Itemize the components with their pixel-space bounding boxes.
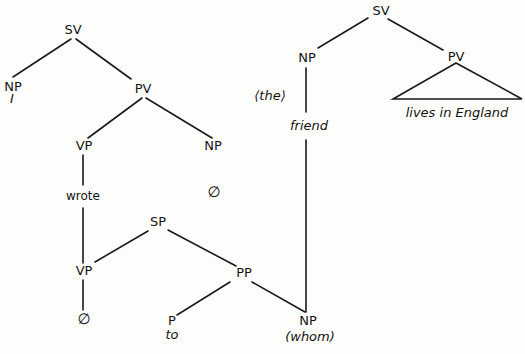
word-whom: (whom): [285, 329, 335, 344]
edge-pv1-vp1: [88, 98, 142, 138]
word-lives-in-england: lives in England: [406, 105, 509, 120]
node-np-object: NP: [204, 138, 222, 153]
null-symbol-object: ∅: [207, 183, 220, 201]
tree-svg: SV NP I PV VP NP ∅ wrote wrote SP VP PP …: [0, 0, 525, 354]
node-pv-relative: PV: [448, 49, 465, 64]
edge-sv1-np1: [13, 39, 71, 77]
word-the: ⟨the⟩: [254, 88, 285, 103]
edge-sv1-pv1: [76, 39, 131, 79]
word-friend: friend: [290, 118, 329, 133]
node-np-whom: NP: [299, 313, 317, 328]
word-i: I: [10, 91, 14, 106]
syntax-tree-diagram: SV NP I PV VP NP ∅ wrote wrote SP VP PP …: [0, 0, 525, 354]
node-pp: PP: [236, 265, 252, 280]
edge-pv1-np2: [146, 98, 212, 138]
node-vp-lower: VP: [76, 263, 93, 278]
triangle-pv2: [393, 63, 522, 99]
node-vp-upper: VP: [76, 138, 93, 153]
edge-sv2-np4: [318, 18, 368, 48]
edge-sp1-pp1: [168, 230, 236, 266]
word-wrote: wrote: [66, 189, 100, 203]
edge-pp1-p1: [177, 282, 230, 315]
node-sv-main: SV: [64, 22, 81, 37]
null-symbol-verb: ∅: [77, 310, 90, 328]
word-to: to: [165, 327, 178, 342]
node-np-relative: NP: [298, 50, 316, 65]
edge-sv2-pv2: [388, 19, 443, 50]
edge-pp1-np3: [252, 282, 305, 312]
node-sp: SP: [150, 214, 166, 229]
node-pv-main: PV: [135, 81, 152, 96]
node-p: P: [168, 313, 176, 328]
edge-sp1-vp2: [95, 231, 148, 262]
node-sv-relative: SV: [372, 3, 389, 18]
